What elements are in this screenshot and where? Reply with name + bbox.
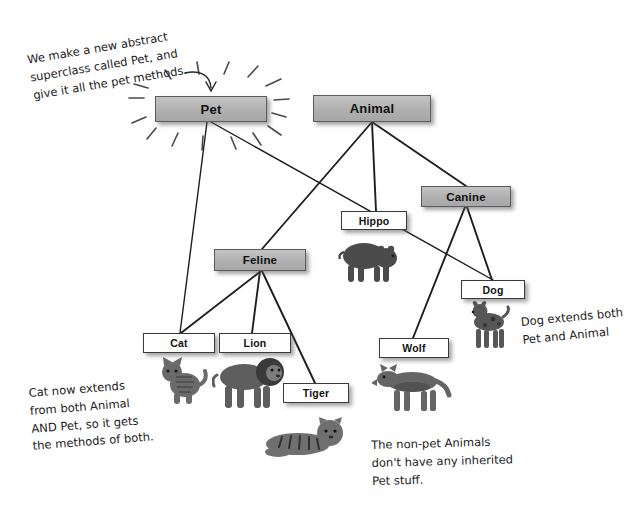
edge-animal-canine <box>372 122 466 186</box>
class-label: Feline <box>243 254 277 266</box>
wolf-photo <box>372 362 452 412</box>
class-label: Cat <box>170 337 188 349</box>
class-label: Animal <box>350 101 395 116</box>
class-label: Wolf <box>402 342 425 354</box>
class-label: Pet <box>201 102 222 117</box>
class-box-hippo[interactable]: Hippo <box>341 211 407 230</box>
class-box-dog[interactable]: Dog <box>461 280 525 299</box>
class-box-wolf[interactable]: Wolf <box>379 338 449 358</box>
annotation-non-pet-animals: The non-pet Animals don't have any inher… <box>371 433 514 490</box>
class-label: Dog <box>482 284 503 296</box>
edge-canine-dog <box>467 207 492 280</box>
dog-photo <box>463 300 515 352</box>
class-label: Hippo <box>359 215 390 227</box>
tiger-photo <box>262 412 348 460</box>
class-label: Lion <box>244 337 267 349</box>
hippo-photo <box>336 236 398 284</box>
edge-animal-hippo <box>372 122 376 211</box>
edge-canine-wolf <box>413 207 465 338</box>
edge-feline-lion <box>252 271 260 333</box>
class-box-pet[interactable]: Pet <box>155 96 267 122</box>
class-box-lion[interactable]: Lion <box>219 333 291 353</box>
class-box-feline[interactable]: Feline <box>214 249 306 271</box>
class-box-cat[interactable]: Cat <box>143 333 215 353</box>
lion-photo <box>212 353 286 409</box>
annotation-cat-extends-both: Cat now extends from both Animal AND Pet… <box>28 375 154 456</box>
edge-pet-cat <box>180 122 207 333</box>
class-box-canine[interactable]: Canine <box>421 186 511 207</box>
cat-photo <box>158 355 208 405</box>
class-label: Canine <box>446 191 486 203</box>
note-to-pet-arrow <box>185 72 216 91</box>
class-box-tiger[interactable]: Tiger <box>283 383 349 403</box>
class-label: Tiger <box>303 387 329 399</box>
class-box-animal[interactable]: Animal <box>313 95 431 122</box>
diagram-canvas: Pet Animal Canine Feline Hippo Dog Cat L… <box>0 0 641 518</box>
edge-feline-cat <box>181 271 261 333</box>
